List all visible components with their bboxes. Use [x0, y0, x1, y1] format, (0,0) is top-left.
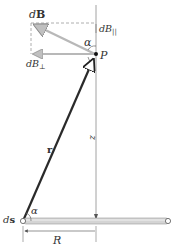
label-point-P: P [100, 50, 107, 61]
loop-end-right [165, 218, 170, 223]
label-ds: ds [3, 215, 15, 225]
label-alpha-top: α [84, 37, 91, 48]
label-dB-perp: dB⊥ [26, 59, 46, 71]
point-P [94, 52, 98, 56]
label-r: r [47, 145, 52, 155]
current-loop-edge [23, 218, 169, 224]
r-vector [23, 60, 93, 221]
ds-element-left [20, 218, 25, 223]
label-dB: dB [29, 9, 45, 20]
label-alpha-bottom: α [31, 206, 38, 216]
label-z: z [88, 135, 97, 140]
label-dB-parallel: dB|| [99, 24, 117, 36]
label-R: R [53, 235, 61, 246]
